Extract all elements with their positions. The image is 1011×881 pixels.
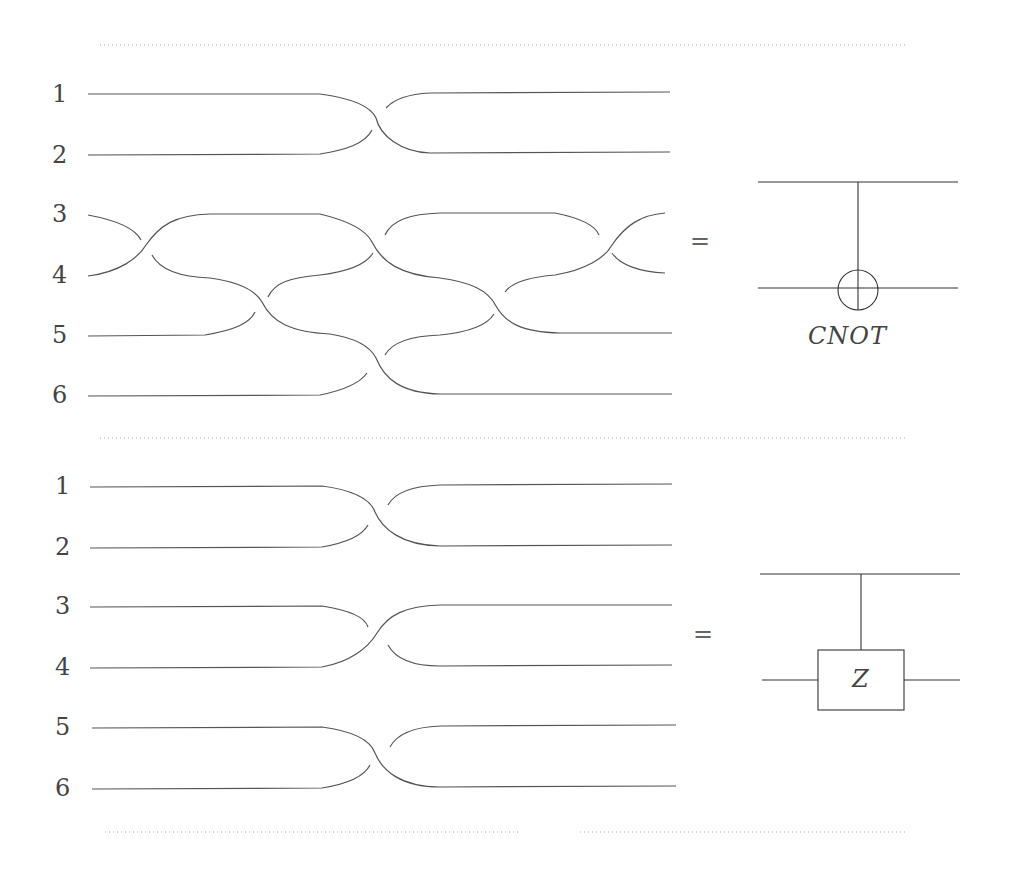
- top-strand-label-4: 4: [52, 261, 67, 289]
- bottom-strand-label-1: 1: [55, 472, 70, 500]
- cnot-label: CNOT: [808, 322, 887, 350]
- bottom-strand-label-3: 3: [55, 592, 70, 620]
- bottom-braid: [90, 484, 676, 789]
- bottom-equals-sign: =: [693, 620, 713, 648]
- braid-diagram: [0, 0, 1011, 881]
- top-strand-label-6: 6: [52, 381, 67, 409]
- top-strand-label-1: 1: [52, 80, 67, 108]
- top-strand-label-3: 3: [52, 200, 67, 228]
- top-braid-strands-3-6: [88, 213, 672, 396]
- z-gate-label: Z: [852, 665, 870, 693]
- bottom-strand-label-6: 6: [55, 774, 70, 802]
- top-braid-strands-1-2: [88, 92, 670, 155]
- top-equals-sign: =: [690, 227, 710, 255]
- top-strand-label-2: 2: [52, 141, 67, 169]
- bottom-strand-label-4: 4: [55, 653, 70, 681]
- bottom-strand-label-5: 5: [55, 713, 70, 741]
- bottom-strand-label-2: 2: [55, 533, 70, 561]
- cnot-gate-diagram: [758, 182, 958, 310]
- top-strand-label-5: 5: [52, 321, 67, 349]
